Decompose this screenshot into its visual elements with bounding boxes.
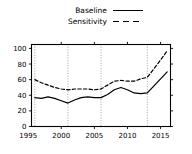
plot-frame [32,45,171,127]
y-tick-label-100: 100 [13,45,26,53]
x-tick-label-2005: 2005 [85,132,103,140]
x-tick-label-2010: 2010 [119,132,137,140]
y-axis-tick-labels: 020406080100 [13,45,26,131]
y-tick-label-80: 80 [18,61,27,69]
y-tick-label-60: 60 [18,76,27,84]
reference-lines-group [35,45,148,127]
y-tick-label-20: 20 [18,107,27,115]
x-tick-label-2015: 2015 [152,132,170,140]
chart-plot-area: 19952000200520102015 020406080100 [0,0,192,154]
x-tick-label-2000: 2000 [52,132,70,140]
data-series-group [35,51,167,103]
y-tick-label-0: 0 [22,123,26,131]
x-tick-label-1995: 1995 [19,132,37,140]
chart-figure: Baseline Sensitivity 1995200020052010201… [0,0,192,154]
plot-border [32,45,171,127]
x-axis-tick-labels: 19952000200520102015 [19,132,169,140]
y-tick-label-40: 40 [18,92,27,100]
